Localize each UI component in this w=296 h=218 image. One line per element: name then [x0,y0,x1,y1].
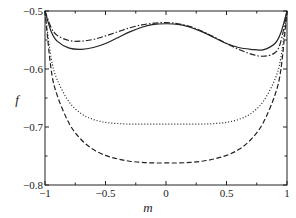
x-tick-label: −0.5 [96,187,116,199]
series-line-solid [45,11,287,50]
x-tick-label: 0.5 [220,187,234,199]
plot-axes: −1−0.500.51−0.8−0.7−0.6−0.5 [23,5,290,199]
line-chart: −1−0.500.51−0.8−0.7−0.6−0.5 m f [0,0,296,218]
plot-frame [45,11,287,185]
x-axis-label: m [143,200,152,215]
x-tick-label: 1 [284,187,290,199]
chart-figure: −1−0.500.51−0.8−0.7−0.6−0.5 m f [0,0,296,218]
x-tick-label: 0 [163,187,169,199]
plot-series [45,11,287,163]
y-tick-label: −0.7 [23,121,43,133]
y-tick-label: −0.8 [23,179,43,191]
series-line-dashed [45,11,287,163]
y-tick-label: −0.6 [23,63,43,75]
y-tick-label: −0.5 [23,5,43,17]
y-axis-label: f [15,92,21,107]
series-line-dotted [45,11,287,124]
